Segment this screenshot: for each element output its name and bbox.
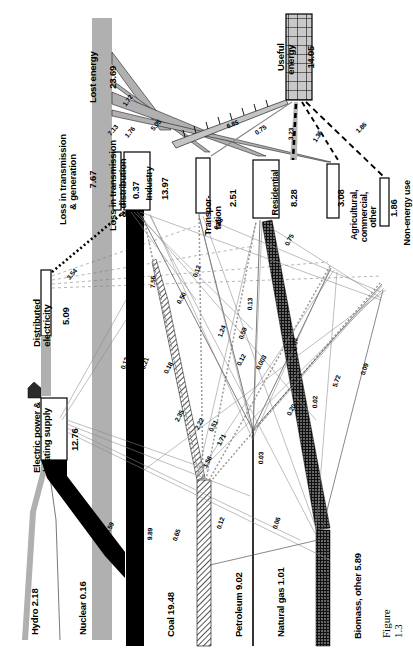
label-hydro-text: Hydro 2.18	[29, 589, 40, 636]
flow-coal-to-industry	[126, 210, 144, 475]
flow-epower-to-distelec	[28, 382, 41, 398]
label-nonenergy-name-wrap: Non-energy use	[394, 180, 413, 250]
label-industry-value: 13.97	[159, 177, 170, 200]
label-agcomm-name-wrap: Agricultural, commercial, other	[341, 184, 379, 250]
flowval-0-02-b: 0.02	[312, 396, 319, 408]
flow-biomass-thin-fans	[210, 290, 383, 565]
flow-residential-to-lost	[112, 92, 266, 156]
label-distelec-name: Distributed electricity	[31, 299, 52, 347]
flowval-7-56-text: 7.56	[149, 276, 156, 288]
label-residential-value-wrap: 8.28	[279, 189, 299, 212]
label-nonenergy-name: Non-energy use	[402, 180, 412, 245]
flow-biomass-trunk	[316, 530, 330, 646]
flowval-0-03-text: 0.03	[257, 452, 264, 464]
flow-petroleum-fan	[143, 214, 381, 482]
label-transport-value-wrap: 2.51	[218, 189, 238, 212]
label-useful-energy: Useful energy 14.05	[266, 43, 316, 76]
label-coal-text: Coal 19.48	[165, 592, 176, 637]
label-coal: Coal 19.48	[156, 592, 176, 642]
flowval-0-02-a-text: 0.02	[291, 338, 298, 350]
figure-caption: Figure 1.3	[380, 609, 404, 638]
label-epower-value-wrap: 12.76	[60, 428, 80, 456]
flowval-9-89: 9.89	[147, 528, 154, 540]
flowval-0-13-a: 0.13	[247, 298, 254, 310]
label-petroleum: Petroleum 9.02	[224, 572, 244, 642]
label-loss-tg-name: Loss in transmission & generation	[57, 134, 78, 225]
label-industry-value-wrap: 13.97	[150, 177, 170, 205]
label-nuclear: Nuclear 0.16	[68, 582, 88, 640]
label-lost-energy-value: 23.69	[107, 66, 118, 89]
flowval-7-56: 7.56	[150, 276, 157, 288]
label-loss-tg-value: 7.67	[87, 171, 98, 189]
label-distelec-value: 5.09	[60, 307, 71, 325]
flow-loss-transmission-generation	[92, 240, 106, 268]
label-biomass-text: Biomass, other 5.89	[352, 553, 363, 639]
label-residential-value: 8.28	[288, 189, 299, 207]
label-loss-transmission-generation: Loss in transmission & generation 7.67	[48, 134, 98, 230]
label-distributed-electricity: Distributed electricity	[22, 299, 52, 352]
label-useful-energy-name: Useful energy	[275, 43, 296, 74]
label-lost-energy-name: Lost energy	[87, 51, 98, 103]
label-lost-energy: Lost energy 23.69	[78, 51, 118, 108]
label-hydro: Hydro 2.18	[20, 589, 40, 640]
figure-caption-text: Figure 1.3	[380, 609, 404, 638]
label-biomass: Biomass, other 5.89	[343, 553, 363, 644]
flowval-3-23-text: 3.23	[287, 128, 294, 140]
label-nuclear-text: Nuclear 0.16	[77, 582, 88, 636]
flowval-0-13-a-text: 0.13	[246, 298, 253, 310]
flow-ribbons	[22, 14, 389, 646]
flowval-0-02-a: 0.02	[292, 338, 299, 350]
flowval-0-02-b-text: 0.02	[311, 396, 318, 408]
flow-coal-trunk	[126, 475, 144, 646]
label-distelec-value-wrap: 5.09	[51, 307, 71, 330]
label-petroleum-text: Petroleum 9.02	[233, 572, 244, 637]
flow-petroleum-trunk	[197, 480, 211, 646]
flowval-9-89-text: 9.89	[146, 528, 153, 540]
label-useful-energy-value: 14.05	[305, 46, 316, 69]
label-naturalgas-text: Natural gas 1.01	[275, 567, 286, 637]
label-epower-value: 12.76	[69, 428, 80, 451]
flowval-3-23: 3.23	[288, 128, 295, 140]
flowval-0-03: 0.03	[258, 452, 265, 464]
flow-coal-to-epower	[41, 460, 125, 578]
label-agcomm-name: Agricultural, commercial, other	[349, 190, 378, 243]
label-naturalgas: Natural gas 1.01	[266, 567, 286, 642]
label-electric-power: Electric power & heating supply	[22, 402, 52, 478]
label-transport-value: 2.51	[227, 189, 238, 207]
label-epower-name: Electric power & heating supply	[31, 402, 52, 473]
